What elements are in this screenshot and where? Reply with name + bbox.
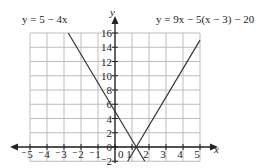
x-tick-label: 3 — [160, 148, 166, 160]
x-tick-label: ⁻2 — [72, 148, 84, 160]
x-axis-arrow-left-icon — [10, 144, 18, 151]
equation-label-1: y = 5 − 4x — [22, 13, 68, 25]
x-tick-label: ⁻5 — [21, 148, 33, 160]
plot-lines — [68, 33, 200, 161]
x-axis-label: x — [213, 143, 219, 155]
x-tick-label: ⁻3 — [55, 148, 67, 160]
y-tick-label: 14 — [101, 41, 113, 53]
y-tick-label: 6 — [107, 98, 113, 110]
y-axis-label: y — [109, 6, 115, 18]
y-tick-label: 8 — [107, 84, 113, 96]
y-tick-label: 10 — [101, 70, 113, 82]
x-tick-label: 2 — [143, 148, 149, 160]
coordinate-plane: ⁻5⁻4⁻3⁻2⁻1123450⁻20246810121416 y = 5 − … — [0, 0, 260, 168]
x-tick-label: 4 — [177, 148, 183, 160]
origin-label: 0 — [118, 148, 124, 160]
y-tick-label: 2 — [107, 127, 113, 139]
y-tick-label: 4 — [107, 113, 113, 125]
y-tick-label: 0 — [107, 141, 113, 153]
tick-labels: ⁻5⁻4⁻3⁻2⁻1123450⁻20246810121416 — [21, 27, 200, 167]
x-tick-label: 5 — [194, 148, 200, 160]
equation-label-2: y = 9x − 5(x − 3) − 20 — [156, 13, 255, 26]
x-tick-label: ⁻1 — [89, 148, 101, 160]
x-tick-label: ⁻4 — [38, 148, 50, 160]
y-tick-label: 16 — [101, 27, 113, 39]
y-tick-label: 12 — [101, 56, 112, 68]
y-tick-label: ⁻2 — [101, 155, 113, 167]
plot-line-2 — [128, 40, 200, 161]
